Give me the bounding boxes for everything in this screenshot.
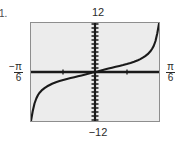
x-max-label: π 6 xyxy=(166,62,175,83)
calculator-screen xyxy=(30,22,160,122)
graph-figure: 1. 12 xyxy=(0,0,184,146)
x-max-denominator: 6 xyxy=(166,73,175,83)
y-min-label: −12 xyxy=(6,126,184,138)
y-max-label: 12 xyxy=(6,6,184,18)
plot-canvas xyxy=(31,23,159,121)
x-min-denominator: 6 xyxy=(14,73,23,83)
x-min-label: − π 6 xyxy=(14,62,23,83)
x-min-sign: − xyxy=(9,62,15,72)
